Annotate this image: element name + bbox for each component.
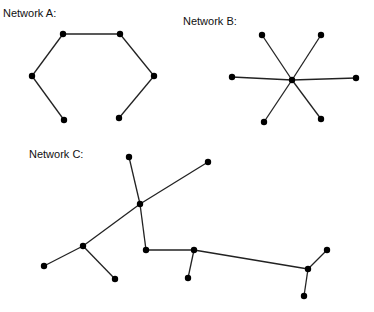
network-b-edge: [292, 80, 321, 119]
network-b-edge: [232, 77, 292, 80]
network-c: [41, 154, 330, 299]
network-b-edge: [262, 35, 292, 80]
network-a-node: [116, 115, 122, 121]
network-c-node: [191, 247, 197, 253]
network-a-edge: [119, 76, 154, 118]
network-c-node: [305, 266, 311, 272]
network-b-node: [353, 75, 359, 81]
network-diagram: [0, 0, 374, 312]
network-a-node: [29, 73, 35, 79]
network-a-edge: [32, 76, 64, 120]
network-a-node: [151, 73, 157, 79]
network-a: [29, 31, 157, 123]
network-c-node: [185, 275, 191, 281]
network-a-node: [117, 31, 123, 37]
network-c-edge: [83, 246, 115, 279]
network-a-edge: [120, 34, 154, 76]
network-c-edge: [304, 269, 308, 296]
network-a-node: [60, 31, 66, 37]
network-c-node: [324, 247, 330, 253]
network-b-node: [318, 116, 324, 122]
network-c-node: [80, 243, 86, 249]
network-a-node: [61, 117, 67, 123]
network-c-node: [143, 247, 149, 253]
network-c-node: [301, 293, 307, 299]
network-c-edge: [44, 246, 83, 266]
network-b-edge: [292, 78, 356, 80]
network-c-node: [126, 154, 132, 160]
network-b-node: [229, 74, 235, 80]
network-b-node: [318, 32, 324, 38]
network-c-edge: [140, 204, 146, 250]
network-a-edge: [32, 34, 63, 76]
network-b: [229, 32, 359, 125]
network-c-edge: [188, 250, 194, 278]
network-b-edge: [264, 80, 292, 122]
network-c-edge: [308, 250, 327, 269]
network-c-edge: [140, 162, 208, 204]
network-c-edge: [83, 204, 140, 246]
network-c-edge: [129, 157, 140, 204]
network-b-node: [289, 77, 295, 83]
network-c-edge: [194, 250, 308, 269]
network-b-node: [259, 32, 265, 38]
network-c-node: [112, 276, 118, 282]
network-b-node: [261, 119, 267, 125]
network-c-node: [205, 159, 211, 165]
network-c-node: [41, 263, 47, 269]
network-c-node: [137, 201, 143, 207]
network-b-edge: [292, 35, 321, 80]
